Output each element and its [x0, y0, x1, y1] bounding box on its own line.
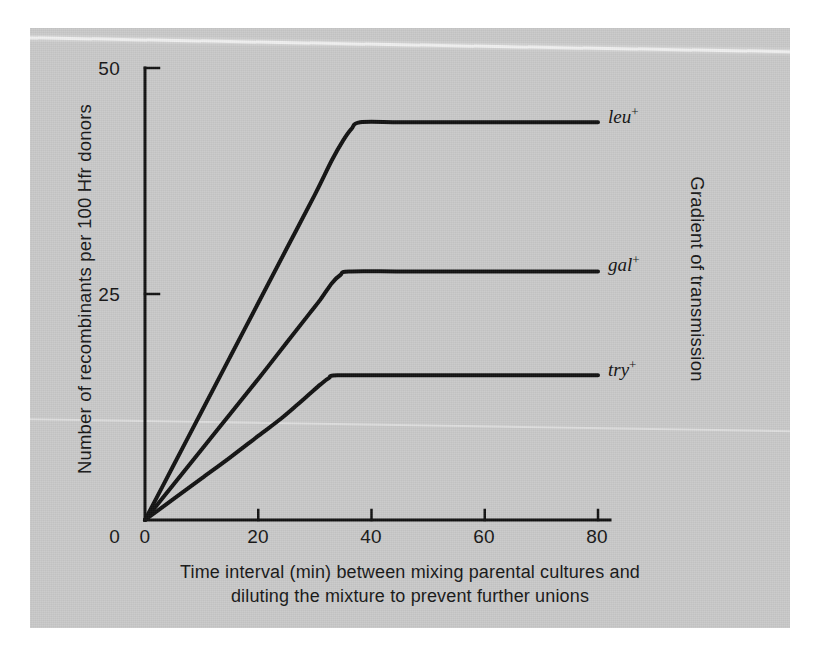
- figure-panel: 50 25 0 0 20 40 60 80 Number of recombin…: [30, 28, 790, 628]
- series-label-leu: leu+: [608, 106, 639, 128]
- series-label-leu-text: leu: [608, 106, 631, 127]
- series-curve-leu: [145, 122, 598, 520]
- plot-area: 50 25 0 0 20 40 60 80 Number of recombin…: [30, 28, 790, 628]
- y-tick-label-50: 50: [70, 58, 120, 80]
- series-label-gal-superscript: +: [632, 252, 639, 267]
- series-label-try-text: try: [608, 359, 629, 380]
- axis-lines: [145, 68, 610, 520]
- series-label-gal: gal+: [608, 254, 640, 276]
- axis-ticks: [145, 68, 598, 520]
- x-tick-label-80: 80: [577, 526, 617, 548]
- x-axis-caption-line-2: diluting the mixture to prevent further …: [90, 585, 730, 609]
- series-label-try-superscript: +: [629, 357, 636, 372]
- x-tick-label-40: 40: [351, 526, 391, 548]
- y-tick-label-0: 0: [70, 526, 120, 548]
- series-label-gal-text: gal: [608, 254, 632, 275]
- x-tick-label-20: 20: [238, 526, 278, 548]
- y-axis-title: Number of recombinants per 100 Hfr donor…: [74, 79, 96, 499]
- x-axis-caption: Time interval (min) between mixing paren…: [90, 561, 730, 609]
- series-label-leu-superscript: +: [631, 104, 638, 119]
- x-tick-label-0: 0: [125, 526, 165, 548]
- series-paths: [145, 122, 598, 520]
- series-label-try: try+: [608, 359, 636, 381]
- x-axis-caption-line-1: Time interval (min) between mixing paren…: [90, 561, 730, 585]
- series-curve-try: [145, 375, 598, 520]
- gradient-of-transmission-label: Gradient of transmission: [686, 129, 708, 429]
- x-tick-label-60: 60: [464, 526, 504, 548]
- series-curve-gal: [145, 271, 598, 520]
